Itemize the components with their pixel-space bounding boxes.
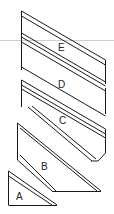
panel-label-c: C xyxy=(59,115,66,126)
panel-diagram: E D C B A xyxy=(0,0,114,214)
panel-c: C xyxy=(22,80,106,161)
panel-a: A xyxy=(9,171,58,206)
panel-label-d: D xyxy=(58,79,65,90)
panel-label-b: B xyxy=(41,161,48,172)
panel-label-e: E xyxy=(58,42,65,53)
panel-label-a: A xyxy=(16,191,23,202)
